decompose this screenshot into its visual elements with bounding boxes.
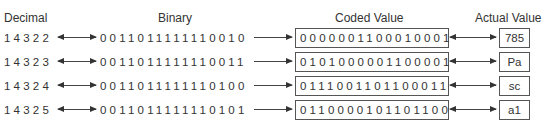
double-arrow-icon bbox=[450, 109, 496, 110]
binary-value: 0011011111110101 bbox=[100, 100, 248, 120]
table-row: 14322 0011011111110010 0000001100010001 … bbox=[0, 28, 551, 48]
decimal-value: 14322 bbox=[4, 28, 52, 48]
actual-value-box: a1 bbox=[499, 100, 530, 120]
actual-value: a1 bbox=[508, 104, 521, 116]
double-arrow-icon bbox=[58, 61, 96, 62]
coded-value: 0000001100010001 bbox=[300, 32, 453, 44]
actual-value: Pa bbox=[507, 56, 521, 68]
right-arrow-icon bbox=[254, 85, 292, 86]
header-binary: Binary bbox=[158, 11, 192, 25]
table-row: 14324 0011011111110100 0111001101100011 … bbox=[0, 76, 551, 96]
decimal-value: 14324 bbox=[4, 76, 52, 96]
actual-value-box: 785 bbox=[499, 28, 530, 48]
coded-value: 0110000101101100 bbox=[300, 104, 451, 116]
actual-value: 785 bbox=[505, 32, 524, 44]
actual-value-box: Pa bbox=[499, 52, 530, 72]
double-arrow-icon bbox=[58, 37, 96, 38]
decimal-value: 14323 bbox=[4, 52, 52, 72]
coded-value-box: 0101000001100001 bbox=[295, 52, 449, 72]
binary-value: 0011011111110100 bbox=[100, 76, 248, 96]
coded-value-box: 0110000101101100 bbox=[295, 100, 449, 120]
decimal-value: 14325 bbox=[4, 100, 52, 120]
binary-value: 0011011111110010 bbox=[100, 28, 248, 48]
coded-value: 0111001101100011 bbox=[300, 80, 449, 92]
actual-value-box: sc bbox=[499, 76, 530, 96]
table-row: 14325 0011011111110101 0110000101101100 … bbox=[0, 100, 551, 120]
coded-value: 0101000001100001 bbox=[300, 56, 453, 68]
right-arrow-icon bbox=[254, 109, 292, 110]
double-arrow-icon bbox=[450, 37, 496, 38]
header-decimal: Decimal bbox=[4, 11, 47, 25]
coded-value-box: 0111001101100011 bbox=[295, 76, 449, 96]
actual-value: sc bbox=[509, 80, 521, 92]
double-arrow-icon bbox=[58, 109, 96, 110]
double-arrow-icon bbox=[450, 61, 496, 62]
header-coded-value: Coded Value bbox=[335, 11, 404, 25]
coded-value-box: 0000001100010001 bbox=[295, 28, 449, 48]
right-arrow-icon bbox=[254, 61, 292, 62]
double-arrow-icon bbox=[58, 85, 96, 86]
binary-value: 0011011111110011 bbox=[100, 52, 247, 72]
header-actual-value: Actual Value bbox=[475, 11, 542, 25]
right-arrow-icon bbox=[254, 37, 292, 38]
double-arrow-icon bbox=[450, 85, 496, 86]
table-row: 14323 0011011111110011 0101000001100001 … bbox=[0, 52, 551, 72]
